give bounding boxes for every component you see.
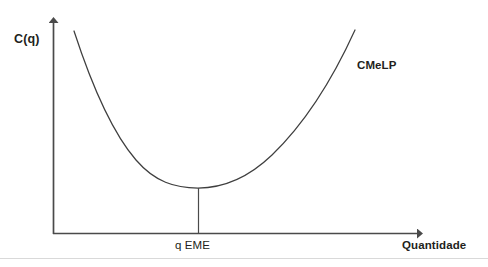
x-axis-tick-label-q-eme: q EME <box>175 240 210 252</box>
chart-canvas <box>0 0 488 267</box>
x-axis-title: Quantidade <box>402 240 466 252</box>
cost-curve-cmelp <box>74 30 355 188</box>
y-axis-title: C(q) <box>14 33 39 46</box>
curve-label-cmelp: CMeLP <box>357 60 396 72</box>
cost-curve-figure: C(q) CMeLP q EME Quantidade <box>0 0 488 267</box>
figure-bottom-divider <box>0 258 488 259</box>
